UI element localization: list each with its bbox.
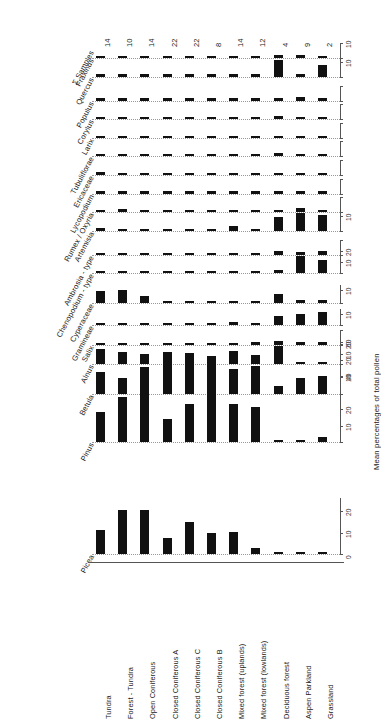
axis-tick [340,141,343,142]
bar [96,117,105,119]
bar [118,397,127,442]
sample-count: 22 [170,39,179,47]
bar [185,522,194,555]
axis-tick-label: 10 [345,60,352,67]
bar [140,253,149,255]
bar [274,116,283,119]
bar [251,210,260,212]
row-baseline [92,345,340,346]
bar [318,300,327,303]
axis-tick [340,138,343,139]
bar [185,229,194,231]
bar [318,437,327,442]
zone-label: Closed Coniferous A [171,650,180,719]
bar [140,191,149,193]
bar [118,209,127,212]
sample-count: 14 [147,39,156,47]
bar [96,228,105,230]
bar [118,378,127,394]
bar [229,117,238,119]
axis-tick [340,231,343,232]
bar [185,301,194,303]
bar [140,323,149,325]
bar [296,213,305,231]
bar [185,253,194,255]
axis-tick [340,240,343,241]
axis-tick [340,62,343,63]
bar [207,98,216,100]
bar [185,271,194,273]
bar [207,74,216,76]
bar [274,55,283,58]
axis-tick [340,442,343,443]
bar [163,117,172,119]
bar [96,74,105,76]
row-baseline [92,58,340,59]
row-baseline [92,119,340,120]
bar [140,343,149,345]
bar [96,412,105,442]
bar [118,253,127,255]
axis-tick-label: 10 [345,530,352,537]
row-axis [340,141,341,156]
sample-count: 8 [214,43,223,47]
bar [163,136,172,138]
bar [229,271,238,273]
bar [318,376,327,395]
bar [185,323,194,325]
bar [140,154,149,156]
bar [274,316,283,325]
taxon-label: Picea [79,553,96,575]
row-baseline [92,273,340,274]
bar [229,191,238,193]
bar [251,56,260,58]
bar [229,532,238,555]
bar [229,253,238,255]
bar [140,510,149,555]
bar [96,191,105,193]
bar [251,191,260,193]
bar [118,117,127,119]
bar [207,323,216,325]
bar [251,173,260,175]
bar [163,98,172,100]
bar [274,173,283,175]
bar [274,552,283,554]
bar [229,56,238,58]
bar [274,294,283,303]
bar [163,301,172,303]
axis-tick-label: 20 [345,407,352,414]
bar [207,191,216,193]
axis-tick [340,262,343,263]
bar [207,117,216,119]
axis-tick [340,194,343,195]
bar [251,548,260,555]
bar [140,56,149,58]
bar [96,530,105,554]
bar [251,323,260,325]
row-baseline [92,231,340,232]
bar [296,362,305,364]
axis-tick [340,325,343,326]
sample-count: 2 [325,43,334,47]
bar [274,346,283,364]
bar [140,173,149,175]
bar [140,136,149,138]
row-baseline [92,175,340,176]
bar [296,97,305,101]
bar [207,301,216,303]
bar [296,136,305,138]
bar [274,136,283,138]
axis-tick [340,330,343,331]
bar [185,154,194,156]
bar [163,56,172,58]
axis-tick [340,156,343,157]
bar [207,154,216,156]
bar [318,173,327,175]
axis-tick [340,179,343,180]
bar [118,290,127,304]
bar [251,355,260,364]
row-baseline [92,325,340,326]
bar [118,191,127,193]
